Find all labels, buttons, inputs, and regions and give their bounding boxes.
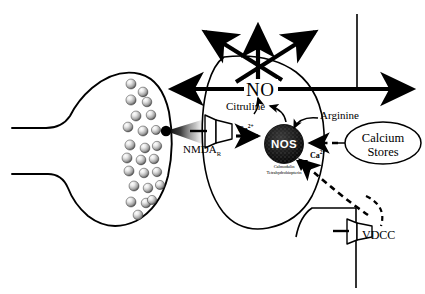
calcium-influx-label: Ca2+ bbox=[238, 124, 254, 134]
nos-to-citruline-curve bbox=[270, 106, 286, 122]
calcium-release-symbol: Ca bbox=[310, 151, 320, 160]
calcium-influx-charge: 2+ bbox=[248, 123, 254, 129]
arginine-label: Arginine bbox=[320, 110, 359, 121]
vdcc-label: VDCC bbox=[362, 229, 395, 241]
calcium-stores-label: Calcium Stores bbox=[353, 131, 413, 159]
diagram-canvas: NOS NO bbox=[0, 0, 425, 294]
no-arrow-upper-left bbox=[205, 32, 282, 80]
vdcc-dashed-arc bbox=[366, 196, 382, 226]
release-site-dot bbox=[161, 126, 171, 136]
no-diffusion-arrows bbox=[172, 26, 412, 89]
nmda-receptor-label: NMDAR bbox=[183, 144, 221, 158]
calcium-stores-line1: Calcium bbox=[353, 131, 413, 145]
calcium-stores-line2: Stores bbox=[353, 145, 413, 159]
arginine-to-nos-curve bbox=[294, 118, 318, 128]
nos-cofactors-label: Calmodulin Tetrahydrobiopterin bbox=[254, 164, 314, 175]
no-label: NO bbox=[246, 80, 274, 99]
nos-enzyme: NOS bbox=[265, 125, 304, 164]
calcium-release-label: Ca2+ bbox=[310, 150, 326, 160]
calcium-release-charge: 2+ bbox=[320, 149, 326, 155]
calcium-influx-symbol: Ca bbox=[238, 125, 248, 134]
nos-label: NOS bbox=[271, 138, 297, 150]
cofactor-tetrahydrobiopterin: Tetrahydrobiopterin bbox=[254, 170, 314, 176]
nmda-receptor-label-text: NMDA bbox=[183, 143, 217, 155]
citruline-label: Citruline bbox=[226, 101, 265, 112]
nmda-receptor-subscript: R bbox=[217, 150, 221, 157]
